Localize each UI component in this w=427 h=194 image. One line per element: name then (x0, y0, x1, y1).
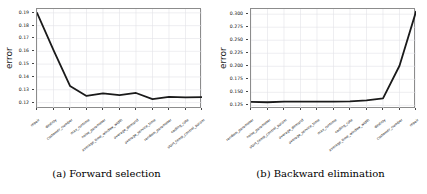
y-tick-label: 0.18 (19, 22, 29, 27)
y-tick-label: 0.175 (230, 76, 243, 81)
chart-svg-1 (251, 9, 416, 109)
x-tick-mark (300, 108, 301, 110)
x-tick-mark (415, 108, 416, 110)
x-tick-mark (53, 108, 54, 110)
x-tick-mark (119, 108, 120, 110)
y-tick-label: 0.150 (230, 89, 243, 94)
x-tick-mark (86, 108, 87, 110)
x-tick-mark (152, 108, 153, 110)
y-tick-mark (32, 37, 34, 38)
x-tick-label: repair (409, 118, 420, 127)
y-tick-label: 0.15 (19, 61, 29, 66)
panel-backward-elimination: error 0.3000.2750.2500.2250.2000.1750.15… (214, 0, 427, 194)
y-axis-label-right: error (216, 28, 230, 88)
y-tick-label: 0.14 (19, 73, 29, 78)
y-tick-mark (32, 76, 34, 77)
caption-forward-selection: (a) Forward selection (0, 168, 213, 179)
x-tick-label: average_service_time (288, 118, 321, 145)
x-tick-label: random_parameter (225, 118, 254, 142)
x-tick-mark (399, 108, 400, 110)
y-tick-mark (246, 39, 248, 40)
y-tick-label: 0.300 (230, 11, 243, 16)
x-tick-mark (201, 108, 202, 110)
y-tick-label: 0.200 (230, 63, 243, 68)
y-tick-mark (246, 78, 248, 79)
y-tick-mark (246, 52, 248, 53)
y-tick-label: 0.16 (19, 48, 29, 53)
x-tick-mark (316, 108, 317, 110)
panel-forward-selection: error 0.190.180.170.160.150.140.130.12 r… (0, 0, 213, 194)
x-axis-tick-marks (250, 108, 415, 109)
x-axis-tick-marks (36, 108, 201, 109)
figure-feature-selection: error 0.190.180.170.160.150.140.130.12 r… (0, 0, 427, 194)
x-tick-mark (69, 108, 70, 110)
y-tick-mark (32, 50, 34, 51)
x-tick-label: repair (30, 118, 41, 127)
x-tick-mark (36, 108, 37, 110)
y-tick-label: 0.275 (230, 24, 243, 29)
y-tick-mark (32, 63, 34, 64)
plot-area-backward-elimination (250, 8, 415, 108)
y-tick-mark (32, 102, 34, 103)
y-tick-mark (246, 26, 248, 27)
y-tick-label: 0.12 (19, 99, 29, 104)
y-tick-mark (32, 25, 34, 26)
x-tick-mark (135, 108, 136, 110)
y-axis-label-left: error (2, 28, 16, 88)
x-tick-mark (382, 108, 383, 110)
y-tick-mark (246, 65, 248, 66)
chart-plot-1 (250, 8, 415, 108)
y-tick-label: 0.250 (230, 37, 243, 42)
y-tick-mark (246, 91, 248, 92)
y-tick-label: 0.19 (19, 9, 29, 14)
y-tick-label: 0.125 (230, 102, 243, 107)
y-tick-label: 0.13 (19, 86, 29, 91)
x-tick-label: destroy (374, 118, 387, 129)
chart-svg-0 (37, 9, 202, 109)
x-tick-mark (185, 108, 186, 110)
x-tick-label: destroy (44, 118, 57, 129)
x-tick-mark (168, 108, 169, 110)
y-tick-mark (32, 12, 34, 13)
x-tick-mark (366, 108, 367, 110)
caption-backward-elimination: (b) Backward elimination (214, 168, 427, 179)
y-tick-label: 0.17 (19, 35, 29, 40)
x-tick-mark (283, 108, 284, 110)
y-tick-mark (246, 104, 248, 105)
x-tick-mark (267, 108, 268, 110)
x-tick-mark (250, 108, 251, 110)
x-tick-mark (102, 108, 103, 110)
y-tick-label: 0.225 (230, 50, 243, 55)
x-tick-mark (333, 108, 334, 110)
chart-plot-0 (36, 8, 201, 108)
y-tick-mark (32, 89, 34, 90)
y-tick-mark (246, 13, 248, 14)
plot-area-forward-selection (36, 8, 201, 108)
x-tick-mark (349, 108, 350, 110)
